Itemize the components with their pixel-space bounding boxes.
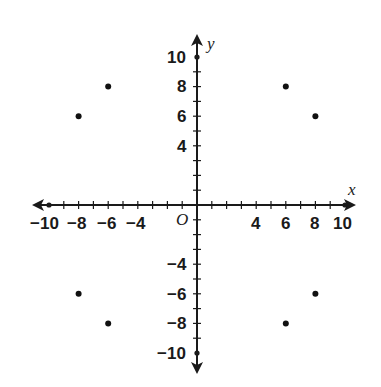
origin-label: O: [176, 210, 188, 229]
x-tick-label: −4: [126, 214, 146, 233]
data-point: [312, 291, 318, 297]
data-point: [76, 291, 82, 297]
y-tick-label: −6: [167, 285, 186, 304]
y-tick-label: 8: [177, 77, 186, 96]
y-tick-label: 10: [167, 48, 186, 67]
x-axis: [32, 199, 356, 211]
x-axis-label: x: [347, 180, 356, 199]
y-tick-label: 4: [177, 137, 187, 156]
x-tick-labels: −10 −8 −6 −4 4 6 8 10: [30, 214, 352, 233]
x-tick-label: −10: [30, 214, 59, 233]
data-point: [312, 113, 318, 119]
data-point: [283, 320, 289, 326]
data-point: [105, 84, 111, 90]
y-tick-label: −10: [157, 344, 186, 363]
y-tick-label: −8: [167, 314, 186, 333]
x-tick-label: 6: [281, 214, 290, 233]
data-point: [105, 320, 111, 326]
x-tick-label: −6: [97, 214, 116, 233]
coordinate-plane: x y O −10 −8 −6 −4 4 6 8 10 10 8 6 4 −4 …: [0, 0, 381, 387]
data-point: [76, 113, 82, 119]
x-tick-label: 8: [310, 214, 319, 233]
y-axis-label: y: [205, 34, 215, 53]
data-point: [283, 84, 289, 90]
y-tick-label: 6: [177, 107, 186, 126]
x-tick-label: 4: [251, 214, 261, 233]
y-tick-label: −4: [167, 255, 187, 274]
x-tick-label: −8: [67, 214, 86, 233]
x-tick-label: 10: [333, 214, 352, 233]
